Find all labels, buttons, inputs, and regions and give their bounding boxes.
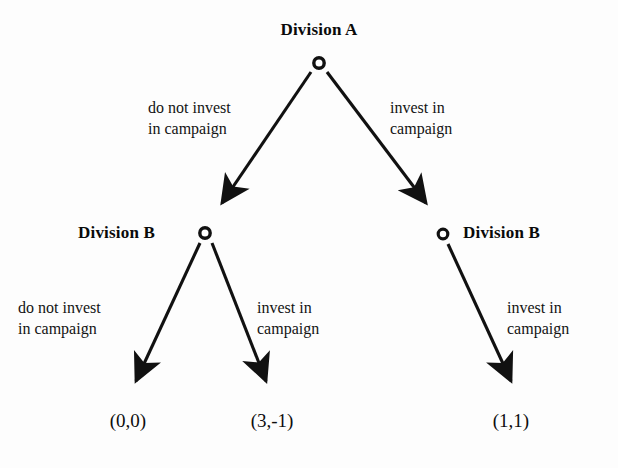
edge-label-right-division-b-invest: invest in campaign <box>507 297 569 339</box>
node-circle-left-division-b <box>200 228 210 238</box>
edge-label-line1: invest in <box>390 99 445 116</box>
edge-label-left-division-b-invest: invest in campaign <box>257 297 319 339</box>
edge-label-left-division-b-do-not-invest: do not invest in campaign <box>18 297 101 339</box>
edge-label-line2: in campaign <box>18 318 101 339</box>
edge-label-line2: campaign <box>257 318 319 339</box>
edge-label-root-invest: invest in campaign <box>390 97 452 139</box>
node-label-right-division-b: Division B <box>463 223 540 243</box>
node-circle-root <box>314 58 324 68</box>
edge-label-line2: in campaign <box>148 118 231 139</box>
payoff-left: (0,0) <box>110 410 146 432</box>
edge-label-line1: invest in <box>257 299 312 316</box>
edge-right-division-b-to-payoff-11 <box>448 244 511 381</box>
edge-label-line1: do not invest <box>148 99 231 116</box>
payoff-right: (1,1) <box>493 410 529 432</box>
edge-label-line2: campaign <box>390 118 452 139</box>
payoff-middle: (3,-1) <box>251 410 294 432</box>
edge-label-line2: campaign <box>507 318 569 339</box>
edge-root-to-left-division-b <box>222 72 311 203</box>
edge-label-root-do-not-invest: do not invest in campaign <box>148 97 231 139</box>
edge-label-line1: do not invest <box>18 299 101 316</box>
edge-label-line1: invest in <box>507 299 562 316</box>
game-tree-diagram: Division A Division B Division B do not … <box>0 0 618 468</box>
node-label-division-a: Division A <box>280 20 357 40</box>
node-label-left-division-b: Division B <box>78 223 155 243</box>
node-circle-right-division-b <box>438 229 448 239</box>
edge-left-division-b-to-payoff-00 <box>136 243 200 381</box>
